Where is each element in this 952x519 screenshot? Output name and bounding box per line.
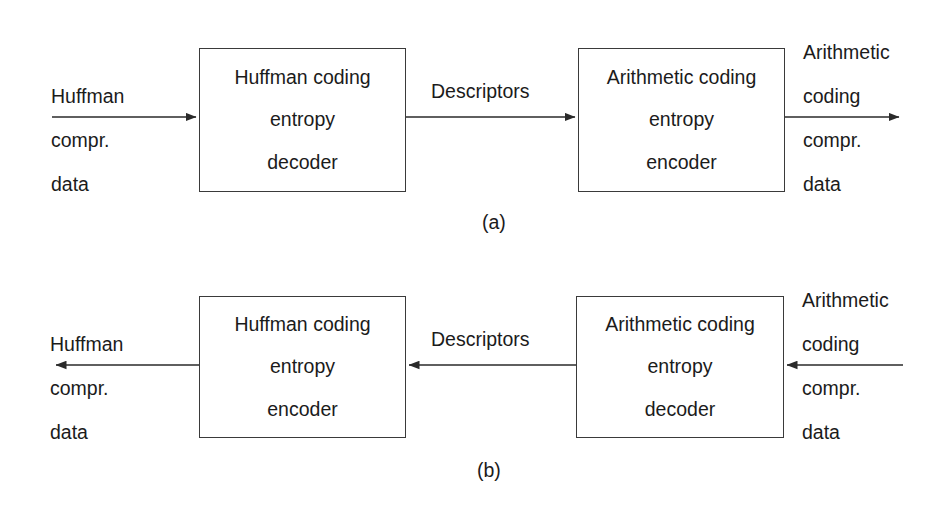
panel-a-right-box-line-2: entropy — [649, 110, 714, 130]
panel-b-descriptors-label: Descriptors — [431, 330, 530, 350]
panel-b-output-line-2: compr. — [50, 366, 123, 410]
panel-b-input-line-1: Arithmetic — [802, 278, 889, 322]
panel-b-input-line-2: coding — [802, 322, 889, 366]
panel-b-input-label: Arithmetic coding compr. data — [802, 278, 889, 454]
panel-b-output-label: Huffman compr. data — [50, 322, 123, 454]
panel-b-arithmetic-decoder-box: Arithmetic coding entropy decoder — [576, 296, 784, 438]
panel-a-output-label: Arithmetic coding compr. data — [803, 30, 890, 206]
panel-b-left-box-line-1: Huffman coding — [234, 315, 370, 335]
panel-a-input-line-3: data — [51, 162, 124, 206]
panel-a-output-line-3: compr. — [803, 118, 890, 162]
panel-b-caption: (b) — [477, 461, 501, 481]
panel-a-right-box-line-1: Arithmetic coding — [607, 68, 757, 88]
panel-a-output-line-4: data — [803, 162, 890, 206]
panel-a-arithmetic-encoder-box: Arithmetic coding entropy encoder — [578, 48, 785, 192]
panel-b-right-box-line-2: entropy — [647, 357, 712, 377]
panel-b-input-line-3: compr. — [802, 366, 889, 410]
panel-a-left-box-line-3: decoder — [267, 153, 337, 173]
panel-a-input-label: Huffman compr. data — [51, 74, 124, 206]
panel-a-caption: (a) — [482, 213, 506, 233]
panel-b-right-box-line-3: decoder — [645, 400, 715, 420]
panel-b-right-box-line-1: Arithmetic coding — [605, 315, 755, 335]
panel-b-huffman-encoder-box: Huffman coding entropy encoder — [199, 296, 406, 438]
panel-b-output-line-3: data — [50, 410, 123, 454]
panel-a-output-line-2: coding — [803, 74, 890, 118]
panel-a-left-box-line-2: entropy — [270, 110, 335, 130]
block-diagram-figure: Huffman compr. data Huffman coding entro… — [0, 0, 952, 519]
panel-a-input-line-2: compr. — [51, 118, 124, 162]
panel-a-descriptors-label: Descriptors — [431, 82, 530, 102]
panel-b-left-box-line-3: encoder — [267, 400, 337, 420]
panel-a-left-box-line-1: Huffman coding — [234, 68, 370, 88]
panel-b-input-line-4: data — [802, 410, 889, 454]
panel-a-right-box-line-3: encoder — [646, 153, 716, 173]
panel-a-output-line-1: Arithmetic — [803, 30, 890, 74]
panel-a-input-line-1: Huffman — [51, 74, 124, 118]
panel-b-left-box-line-2: entropy — [270, 357, 335, 377]
panel-a-huffman-decoder-box: Huffman coding entropy decoder — [199, 48, 406, 192]
panel-b-output-line-1: Huffman — [50, 322, 123, 366]
